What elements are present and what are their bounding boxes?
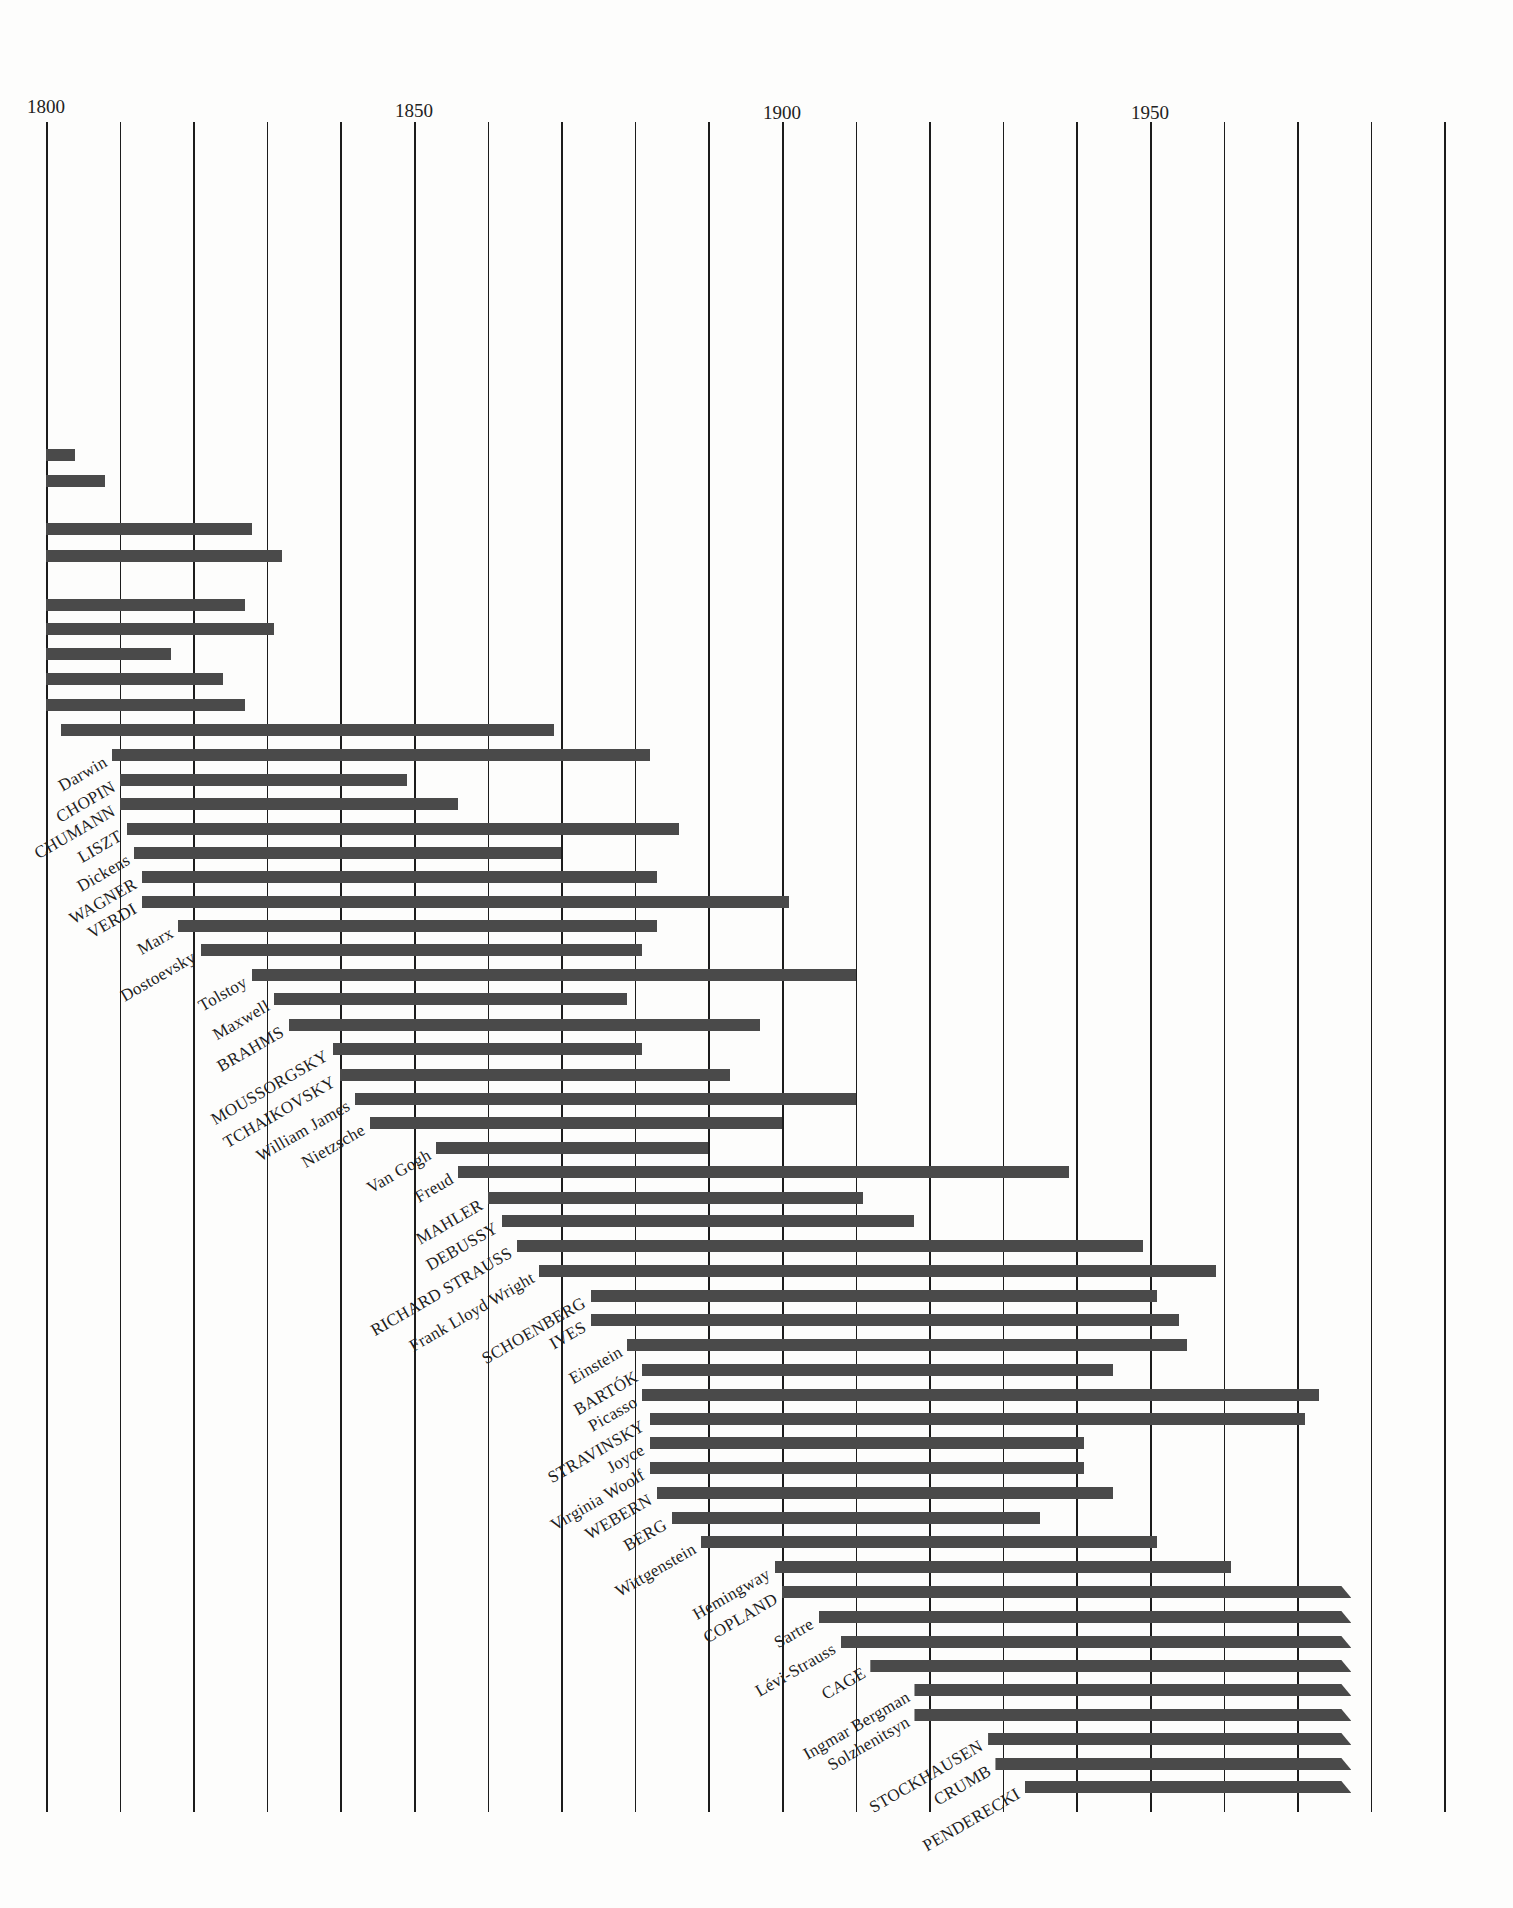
lifespan-bar	[775, 1561, 1231, 1573]
lifespan-bar	[333, 1043, 642, 1055]
lifespan-bar	[782, 1586, 1351, 1598]
lifespan-bar	[995, 1758, 1351, 1770]
gridline-1920	[929, 122, 931, 1812]
lifespan-bar	[488, 1192, 863, 1204]
lifespan-bar	[127, 823, 679, 835]
lifespan-bar	[539, 1265, 1216, 1277]
lifespan-bar	[46, 599, 245, 611]
gridline-1800	[46, 122, 48, 1812]
lifespan-bar	[870, 1660, 1351, 1672]
lifespan-bar	[274, 993, 627, 1005]
lifespan-bar	[120, 774, 407, 786]
lifespan-bar	[46, 699, 245, 711]
lifespan-bar	[650, 1437, 1084, 1449]
lifespan-bar	[642, 1364, 1113, 1376]
lifespan-bar	[819, 1611, 1352, 1623]
gridline-1940	[1076, 122, 1078, 1812]
gridline-1860	[488, 122, 490, 1812]
lifespan-bar	[841, 1636, 1351, 1648]
tick-label-1850: 1850	[395, 100, 433, 122]
lifespan-bar	[178, 920, 656, 932]
lifespan-bar	[650, 1462, 1084, 1474]
lifespan-bar	[46, 550, 282, 562]
gridline-1850	[414, 122, 416, 1812]
gridline-1960	[1224, 122, 1226, 1812]
tick-label-1900: 1900	[763, 102, 801, 124]
timeline-chart: 1800185019001950 DarwinCHOPINCHUMANNLISZ…	[0, 0, 1513, 1908]
lifespan-bar	[701, 1536, 1157, 1548]
gridline-1890	[708, 122, 710, 1812]
lifespan-bar	[591, 1314, 1180, 1326]
lifespan-bar	[458, 1166, 1069, 1178]
lifespan-bar	[112, 749, 649, 761]
person-label: Sartre	[771, 1614, 818, 1653]
gridline-1930	[1003, 122, 1005, 1812]
gridline-1810	[120, 122, 122, 1812]
lifespan-bar	[46, 523, 252, 535]
lifespan-bar	[672, 1512, 1040, 1524]
lifespan-bar	[46, 449, 75, 461]
lifespan-bar	[988, 1733, 1351, 1745]
lifespan-bar	[436, 1142, 708, 1154]
gridline-1980	[1371, 122, 1373, 1812]
gridline-1990	[1444, 122, 1446, 1812]
lifespan-bar	[142, 896, 790, 908]
person-label: Dostoevsky	[117, 947, 199, 1006]
lifespan-bar	[289, 1019, 760, 1031]
lifespan-bar	[120, 798, 459, 810]
gridline-1880	[635, 122, 637, 1812]
person-label: Freud	[412, 1169, 458, 1207]
lifespan-bar	[340, 1069, 730, 1081]
lifespan-bar	[46, 623, 274, 635]
lifespan-bar	[46, 673, 223, 685]
gridline-1910	[856, 122, 858, 1812]
gridline-1870	[561, 122, 563, 1812]
lifespan-bar	[502, 1215, 914, 1227]
lifespan-bar	[370, 1117, 782, 1129]
lifespan-bar	[642, 1389, 1319, 1401]
gridline-1830	[267, 122, 269, 1812]
lifespan-bar	[591, 1290, 1158, 1302]
lifespan-bar	[650, 1413, 1305, 1425]
tick-label-1950: 1950	[1131, 102, 1169, 124]
lifespan-bar	[142, 871, 657, 883]
lifespan-bar	[914, 1709, 1351, 1721]
lifespan-bar	[355, 1093, 855, 1105]
gridline-1840	[340, 122, 342, 1812]
lifespan-bar	[46, 475, 105, 487]
gridline-1950	[1150, 122, 1152, 1812]
lifespan-bar	[252, 969, 856, 981]
tick-label-1800: 1800	[27, 96, 65, 118]
lifespan-bar	[657, 1487, 1113, 1499]
gridline-1970	[1297, 122, 1299, 1812]
lifespan-bar	[46, 648, 171, 660]
lifespan-bar	[1025, 1781, 1351, 1793]
lifespan-bar	[134, 847, 561, 859]
lifespan-bar	[517, 1240, 1143, 1252]
lifespan-bar	[914, 1684, 1351, 1696]
gridline-1900	[782, 122, 784, 1812]
person-label: CAGE	[818, 1663, 869, 1704]
lifespan-bar	[201, 944, 643, 956]
lifespan-bar	[61, 724, 554, 736]
lifespan-bar	[627, 1339, 1186, 1351]
person-label: Marx	[135, 923, 178, 959]
